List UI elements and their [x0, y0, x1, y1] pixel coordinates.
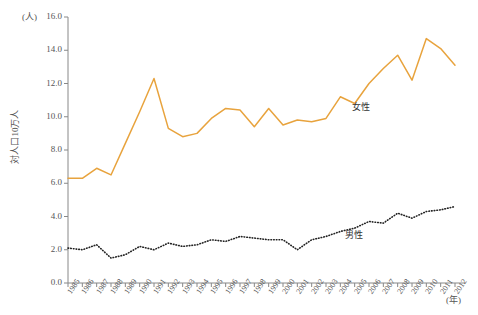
series-label-male: 男性	[345, 228, 363, 241]
x-axis-tick-label: 1993	[181, 278, 197, 296]
x-axis-tick-label: 1996	[224, 278, 240, 296]
x-axis-tick-label: 2004	[338, 278, 354, 296]
x-axis-tick-label: 2006	[367, 278, 383, 296]
x-axis-tick-label: 1986	[80, 278, 96, 296]
x-axis-tick-labels: 1985198619871988198919901991199219931994…	[0, 0, 478, 315]
x-axis-tick-label: 1985	[66, 278, 82, 296]
x-axis-tick-label: 2009	[410, 278, 426, 296]
x-axis-tick-label: 2010	[424, 278, 440, 296]
x-axis-tick-label: 2001	[295, 278, 311, 296]
x-axis-tick-label: 1994	[195, 278, 211, 296]
x-axis-tick-label: 2012	[453, 278, 469, 296]
x-axis-tick-label: 1987	[95, 278, 111, 296]
series-label-female: 女性	[352, 100, 370, 113]
x-axis-tick-label: 2011	[439, 278, 455, 295]
x-axis-tick-label: 2002	[310, 278, 326, 296]
x-axis-tick-label: 2008	[396, 278, 412, 296]
x-axis-tick-label: 1995	[209, 278, 225, 296]
x-axis-tick-label: 1999	[267, 278, 283, 296]
x-axis-tick-label: 1998	[252, 278, 268, 296]
x-axis-tick-label: 1989	[123, 278, 139, 296]
x-axis-tick-label: 1990	[138, 278, 154, 296]
x-axis-tick-label: 1988	[109, 278, 125, 296]
x-axis-tick-label: 1991	[152, 278, 168, 296]
x-axis-tick-label: 1992	[166, 278, 182, 296]
x-axis-tick-label: 2000	[281, 278, 297, 296]
x-axis-tick-label: 2005	[353, 278, 369, 296]
x-axis-tick-label: 2003	[324, 278, 340, 296]
chart-container: (人) (年) 対人口10万人 0.02.04.06.08.010.012.01…	[0, 0, 478, 315]
x-axis-tick-label: 2007	[381, 278, 397, 296]
x-axis-tick-label: 1997	[238, 278, 254, 296]
